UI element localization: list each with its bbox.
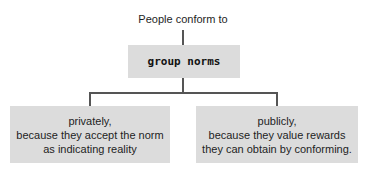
child-line: publicly, — [202, 114, 352, 128]
child-line: because they accept the norm — [16, 128, 163, 142]
connector-horizontal-branch — [89, 92, 278, 94]
child-node-publicly: publicly, because they value rewards the… — [196, 106, 358, 163]
child-line: as indicating reality — [16, 142, 163, 156]
child-line: privately, — [16, 114, 163, 128]
child-line: they can obtain by conforming. — [202, 142, 352, 156]
connector-title-to-root — [182, 30, 184, 45]
connector-root-down — [182, 78, 184, 93]
diagram-title: People conform to — [0, 12, 366, 26]
connector-to-right-child — [276, 92, 278, 106]
child-node-text: privately, because they accept the norm … — [16, 114, 163, 156]
root-node-group-norms: group norms — [128, 45, 240, 78]
child-line: because they value rewards — [202, 128, 352, 142]
root-node-label: group norms — [148, 55, 221, 68]
child-node-text: publicly, because they value rewards the… — [202, 114, 352, 156]
connector-to-left-child — [89, 92, 91, 106]
child-node-privately: privately, because they accept the norm … — [10, 106, 170, 163]
